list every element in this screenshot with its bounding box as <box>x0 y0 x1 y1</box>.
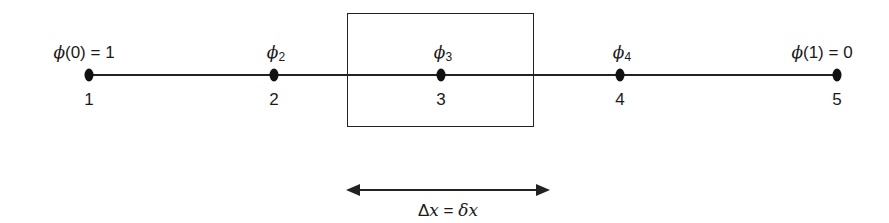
phi-subscript: 2 <box>278 50 285 64</box>
node-index-2: 2 <box>269 90 278 110</box>
boundary-value-text: (1) = 0 <box>803 43 853 62</box>
node-point-4 <box>616 69 625 82</box>
node-label-2: ϕ2 <box>267 42 285 64</box>
domain-line <box>89 74 837 76</box>
node-label-1: ϕ(0) = 1 <box>53 42 114 63</box>
double-arrow-icon <box>340 180 560 200</box>
spacing-label: Δx = δx <box>418 200 478 221</box>
phi-symbol: ϕ <box>613 42 625 62</box>
node-point-1 <box>85 69 94 82</box>
node-point-3 <box>437 69 446 82</box>
node-index-3: 3 <box>436 90 445 110</box>
delta-symbol: Δ <box>418 201 429 220</box>
phi-symbol: ϕ <box>53 42 65 62</box>
x-variable: x <box>429 200 439 220</box>
node-index-4: 4 <box>615 90 624 110</box>
equals-sign: = <box>439 201 458 220</box>
node-index-5: 5 <box>832 90 841 110</box>
boundary-value-text: (0) = 1 <box>65 43 115 62</box>
phi-subscript: 4 <box>624 50 631 64</box>
node-index-1: 1 <box>84 90 93 110</box>
phi-symbol: ϕ <box>267 42 279 62</box>
node-label-4: ϕ4 <box>613 42 631 64</box>
phi-symbol: ϕ <box>791 42 803 62</box>
node-label-3: ϕ3 <box>434 42 452 64</box>
phi-subscript: 3 <box>445 50 452 64</box>
small-delta-symbol: δ <box>458 200 468 220</box>
node-point-5 <box>833 69 842 82</box>
node-label-5: ϕ(1) = 0 <box>791 42 852 63</box>
node-point-2 <box>270 69 279 82</box>
x-variable: x <box>468 200 478 220</box>
phi-symbol: ϕ <box>434 42 446 62</box>
